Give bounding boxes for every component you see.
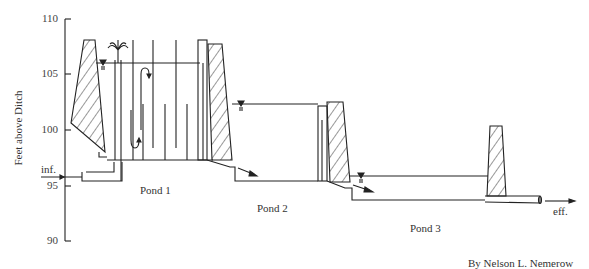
effluent-arrow bbox=[545, 199, 575, 203]
pond3-label: Pond 3 bbox=[410, 222, 441, 234]
flow-arrow-pond2-to-pond3 bbox=[353, 185, 373, 192]
flow-arrow-pond1-to-pond2 bbox=[238, 168, 257, 176]
pond3-dam bbox=[487, 126, 506, 196]
y-tick-110: 110 bbox=[28, 12, 58, 24]
effluent-label: eff. bbox=[553, 205, 568, 217]
pond2-label: Pond 2 bbox=[257, 202, 288, 214]
pond1-right-dam bbox=[208, 44, 232, 160]
y-axis-label: Feet above Ditch bbox=[12, 90, 24, 165]
pond1-basin bbox=[96, 40, 213, 181]
y-tick-105: 105 bbox=[28, 67, 58, 79]
y-tick-100: 100 bbox=[28, 123, 58, 135]
pond1-label: Pond 1 bbox=[140, 184, 171, 196]
water-level-marker-pond1 bbox=[100, 60, 106, 69]
y-axis bbox=[65, 19, 71, 241]
pond2-right-dam bbox=[327, 102, 350, 182]
y-tick-90: 90 bbox=[28, 234, 58, 246]
inflow-label: inf. bbox=[41, 163, 56, 175]
pond1-left-dam bbox=[71, 40, 105, 152]
water-level-marker-pond2 bbox=[238, 101, 244, 110]
aerator-fountain-icon bbox=[108, 40, 128, 63]
y-tick-95: 95 bbox=[28, 179, 58, 191]
water-level-marker-pond3 bbox=[358, 173, 364, 182]
credit-text: By Nelson L. Nemerow bbox=[468, 257, 573, 269]
